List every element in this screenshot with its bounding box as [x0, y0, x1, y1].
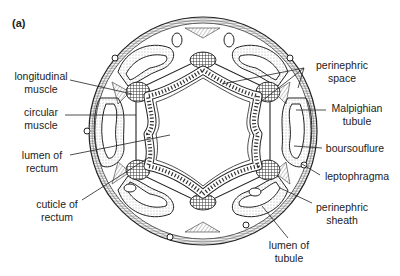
rectal-epithelium: [148, 70, 258, 194]
label-longitudinal-muscle: longitudinal muscle: [10, 70, 72, 95]
label-leptophragma: leptophragma: [322, 170, 392, 183]
label-perinephric-sheath: perinephric sheath: [312, 201, 372, 226]
label-circular-muscle: circular muscle: [18, 106, 64, 131]
label-boursouflure: boursouflure: [322, 142, 388, 155]
label-lumen-of-tubule: lumen of tubule: [266, 239, 312, 264]
rectum-cross-section-drawing: [0, 0, 400, 276]
label-perinephric-space: perinephric space: [312, 59, 372, 84]
diagram-figure: (a) longitudinal muscle circular muscle …: [0, 0, 400, 276]
label-lumen-of-rectum: lumen of rectum: [18, 149, 66, 174]
panel-label: (a): [12, 17, 25, 29]
label-malpighian-tubule: Malpighian tubule: [327, 102, 387, 127]
label-cuticle-of-rectum: cuticle of rectum: [32, 198, 82, 223]
